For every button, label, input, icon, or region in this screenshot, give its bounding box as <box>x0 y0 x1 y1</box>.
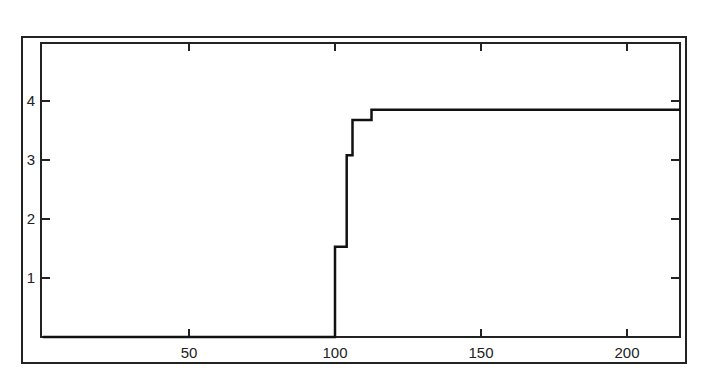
x-tick-label: 100 <box>322 344 347 361</box>
y-tick-label: 4 <box>27 92 35 109</box>
plot-frame <box>41 43 680 337</box>
y-tick-label: 3 <box>27 151 35 168</box>
x-tick-label: 50 <box>181 344 198 361</box>
outer-frame <box>22 37 686 363</box>
step-series-line <box>43 110 680 337</box>
axis-labels: 501001502001234 <box>27 92 640 361</box>
y-tick-label: 1 <box>27 269 35 286</box>
step-chart: 501001502001234 <box>0 0 712 376</box>
y-tick-label: 2 <box>27 210 35 227</box>
x-tick-label: 200 <box>614 344 639 361</box>
axis-ticks <box>41 43 680 337</box>
x-tick-label: 150 <box>468 344 493 361</box>
